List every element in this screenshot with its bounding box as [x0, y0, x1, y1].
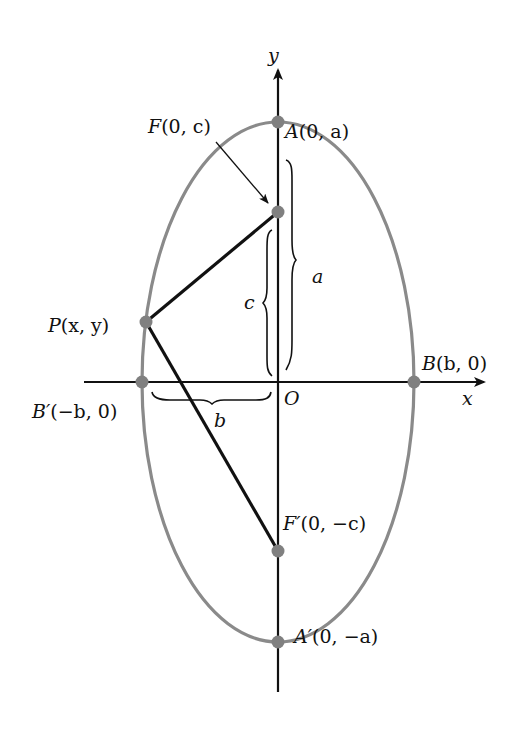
labels: y x O A(0, a) F(0, c) P(x, y) B(b, 0) B′…: [0, 0, 487, 647]
label-F-prime: F′(0, −c): [282, 512, 366, 534]
y-axis-label: y: [267, 44, 279, 66]
brace-label-b: b: [214, 409, 226, 431]
label-B: B(b, 0): [421, 352, 487, 374]
segment-PF-prime: [146, 322, 278, 551]
point-B-prime: [136, 376, 149, 389]
point-B: [408, 376, 421, 389]
label-F: F(0, c): [147, 115, 211, 137]
label-B-prime: B′(−b, 0): [31, 400, 117, 422]
brace-label-c: c: [244, 291, 255, 313]
ellipse-diagram: y x O A(0, a) F(0, c) P(x, y) B(b, 0) B′…: [0, 0, 524, 729]
pointer-arrow-to-F: [216, 142, 268, 203]
label-A-prime-text: A′(0, −a): [292, 625, 378, 647]
point-F: [272, 206, 285, 219]
point-A: [272, 116, 285, 129]
origin-label: O: [284, 387, 300, 409]
point-P: [140, 316, 153, 329]
point-A-prime: [272, 636, 285, 649]
label-P: P(x, y): [47, 314, 109, 336]
brace-a: [286, 160, 296, 370]
point-F-prime: [272, 545, 285, 558]
x-axis-label: x: [462, 387, 473, 409]
brace-label-a: a: [312, 265, 323, 287]
brace-c: [263, 230, 272, 376]
label-A: A(0, a): [283, 120, 349, 142]
segment-PF: [146, 212, 278, 322]
brace-b: [152, 392, 271, 404]
